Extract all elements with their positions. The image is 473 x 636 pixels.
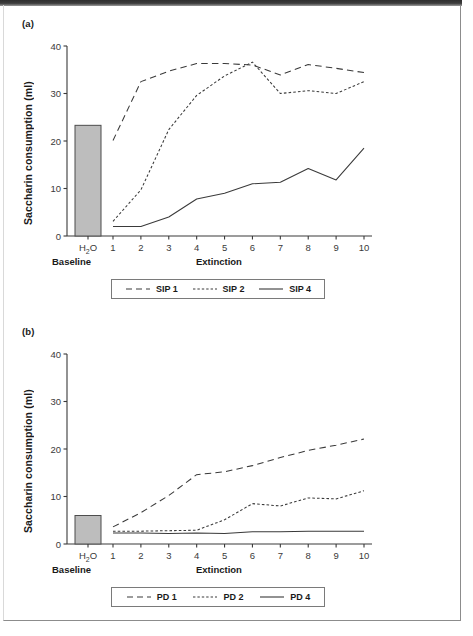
svg-text:20: 20 [50,136,61,147]
legend-label-sip-2: SIP 2 [223,284,245,294]
series-line-pd-2 [113,491,364,531]
legend-label-pd-4: PD 4 [290,592,310,602]
panel-b-legend: PD 1 PD 2 PD 4 [111,587,325,607]
legend-swatch-long-dash-icon [125,285,151,293]
svg-text:10: 10 [359,242,370,253]
panel-b-baseline-group-label: Baseline [52,564,91,575]
panel-a-baseline-group-label: Baseline [52,256,91,267]
legend-label-sip-4: SIP 4 [289,284,311,294]
series-line-sip-4 [113,148,364,226]
svg-text:30: 30 [50,88,61,99]
baseline-tick-label: H2O [79,550,97,563]
legend-swatch-short-dash-icon [192,285,218,293]
svg-text:7: 7 [278,550,283,561]
baseline-tick-label: H2O [79,242,97,255]
svg-text:8: 8 [306,242,311,253]
legend-item-pd-1[interactable]: PD 1 [126,592,177,602]
svg-text:10: 10 [50,491,61,502]
svg-text:9: 9 [333,550,338,561]
svg-text:30: 30 [50,396,61,407]
svg-text:7: 7 [278,242,283,253]
svg-text:2: 2 [138,242,143,253]
svg-text:4: 4 [194,242,199,253]
svg-text:6: 6 [250,550,255,561]
legend-item-sip-2[interactable]: SIP 2 [192,284,245,294]
svg-text:10: 10 [50,183,61,194]
svg-text:1: 1 [110,242,115,253]
series-line-sip-1 [113,64,364,141]
series-line-sip-2 [113,62,364,221]
legend-swatch-long-dash-icon [126,593,152,601]
svg-text:20: 20 [50,444,61,455]
svg-text:0: 0 [56,231,61,242]
svg-text:4: 4 [194,550,199,561]
panel-b-extinction-group-label: Extinction [196,564,242,575]
legend-swatch-short-dash-icon [192,593,218,601]
panel-a: (a) Saccharin consumption (ml) 010203040… [0,0,473,318]
legend-label-sip-1: SIP 1 [156,284,178,294]
legend-swatch-solid-icon [259,593,285,601]
legend-label-pd-1: PD 1 [157,592,177,602]
legend-item-sip-1[interactable]: SIP 1 [125,284,178,294]
legend-label-pd-2: PD 2 [223,592,243,602]
panel-a-plot: 010203040H2O12345678910 [0,0,473,318]
svg-text:5: 5 [222,550,227,561]
legend-swatch-solid-icon [258,285,284,293]
legend-item-pd-2[interactable]: PD 2 [192,592,243,602]
svg-text:40: 40 [50,349,61,360]
svg-text:3: 3 [166,550,171,561]
figure-page: (a) Saccharin consumption (ml) 010203040… [0,0,473,636]
panel-a-extinction-group-label: Extinction [196,256,242,267]
svg-text:1: 1 [110,550,115,561]
legend-item-pd-4[interactable]: PD 4 [259,592,310,602]
series-line-pd-1 [113,439,364,527]
panel-a-legend: SIP 1 SIP 2 SIP 4 [111,279,325,299]
svg-text:5: 5 [222,242,227,253]
svg-text:0: 0 [56,539,61,550]
svg-text:3: 3 [166,242,171,253]
legend-item-sip-4[interactable]: SIP 4 [258,284,311,294]
svg-text:2: 2 [138,550,143,561]
svg-text:6: 6 [250,242,255,253]
svg-text:10: 10 [359,550,370,561]
svg-text:8: 8 [306,550,311,561]
panel-b: (b) Saccharin consumption (ml) 010203040… [0,318,473,636]
svg-text:9: 9 [333,242,338,253]
svg-text:40: 40 [50,41,61,52]
